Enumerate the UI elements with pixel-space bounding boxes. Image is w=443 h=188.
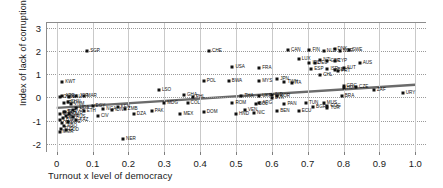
data-point-marker xyxy=(308,48,311,51)
data-point-marker xyxy=(183,93,186,96)
data-point-marker xyxy=(297,110,300,113)
data-point-marker xyxy=(312,106,315,109)
x-axis-tick-label: 0.2 xyxy=(122,158,135,169)
gridline-vertical xyxy=(272,22,273,152)
data-point-label: IDN xyxy=(115,108,123,113)
data-point-marker xyxy=(258,80,261,83)
data-point-marker xyxy=(132,113,135,116)
data-point-label: SGP xyxy=(90,49,100,54)
data-point-label: SVK xyxy=(275,96,284,101)
data-point-marker xyxy=(283,81,286,84)
data-point-label: NIC xyxy=(257,110,265,115)
data-point-marker xyxy=(240,94,243,97)
data-point-marker xyxy=(202,80,205,83)
x-axis-tick-mark xyxy=(272,152,273,155)
data-point-label: ECU xyxy=(302,109,312,114)
x-axis-tick-mark xyxy=(164,152,165,155)
x-axis-tick-mark xyxy=(308,152,309,155)
data-point-marker xyxy=(179,113,182,116)
data-point-marker xyxy=(227,80,230,83)
x-axis-tick-label: 0.1 xyxy=(86,158,99,169)
x-axis-tick-label: 0.6 xyxy=(265,158,278,169)
data-point-marker xyxy=(163,102,166,105)
data-point-label: MMR xyxy=(63,130,74,135)
data-point-marker xyxy=(58,131,61,134)
data-point-marker xyxy=(290,82,293,85)
data-point-label: VNM xyxy=(74,102,84,107)
x-axis-tick-label: 0.3 xyxy=(158,158,171,169)
data-point-marker xyxy=(71,116,74,119)
x-axis-tick-label: 0.8 xyxy=(337,158,350,169)
data-point-marker xyxy=(102,108,105,111)
plot-area: 3210-1-200.10.20.30.40.50.60.70.80.91.0S… xyxy=(46,22,426,152)
data-point-marker xyxy=(340,94,343,97)
data-point-marker xyxy=(333,68,336,71)
data-point-label: CHL xyxy=(323,73,332,78)
data-point-marker xyxy=(59,96,62,99)
x-axis-tick-label: 0.5 xyxy=(229,158,242,169)
y-axis-tick-label: 1 xyxy=(36,69,41,80)
data-point-marker xyxy=(58,113,61,116)
y-axis-tick-label: 0 xyxy=(36,92,41,103)
data-point-label: HND xyxy=(239,111,249,116)
axis-frame-line xyxy=(46,22,47,152)
data-point-marker xyxy=(401,91,404,94)
data-point-label: ZAF xyxy=(377,87,386,92)
y-axis-title: Index of lack of corruption xyxy=(18,0,28,128)
data-point-marker xyxy=(66,120,69,123)
data-point-label: VEN xyxy=(248,108,257,113)
data-point-label: ESP xyxy=(314,67,323,72)
data-point-label: FIN xyxy=(312,48,319,53)
data-point-marker xyxy=(258,102,261,105)
data-point-label: PAN xyxy=(287,102,296,107)
data-point-marker xyxy=(91,104,94,107)
data-point-marker xyxy=(270,96,273,99)
data-point-label: PAK xyxy=(155,109,164,114)
data-point-marker xyxy=(319,74,322,77)
data-point-label: COL xyxy=(191,101,200,106)
data-point-label: USA xyxy=(235,65,244,70)
data-point-marker xyxy=(310,68,313,71)
x-axis-tick-mark xyxy=(57,152,58,155)
scatter-plot-figure: Index of lack of corruption Turnout x le… xyxy=(0,0,443,188)
data-point-marker xyxy=(62,116,65,119)
gridline-vertical xyxy=(308,22,309,152)
data-point-label: CYP xyxy=(338,59,347,64)
data-point-marker xyxy=(86,50,89,53)
data-point-marker xyxy=(75,95,78,98)
data-point-label: AUS xyxy=(363,60,372,65)
data-point-label: KWT xyxy=(65,79,75,84)
y-axis-tick-label: 2 xyxy=(36,46,41,57)
data-point-label: ITA xyxy=(295,81,302,86)
x-axis-title: Turnout x level of democracy xyxy=(48,170,172,181)
data-point-label: NER xyxy=(126,136,136,141)
x-axis-tick-mark xyxy=(93,152,94,155)
data-point-marker xyxy=(342,86,345,89)
data-point-marker xyxy=(157,89,160,92)
data-point-label: MDG xyxy=(167,101,178,106)
x-axis-tick-mark xyxy=(128,152,129,155)
gridline-vertical xyxy=(236,22,237,152)
data-point-marker xyxy=(82,94,85,97)
data-point-label: MEX xyxy=(183,112,193,117)
data-point-label: FRA xyxy=(262,65,271,70)
data-point-label: ARG xyxy=(262,101,272,106)
x-axis-tick-label: 0.4 xyxy=(194,158,207,169)
data-point-marker xyxy=(231,102,234,105)
data-point-label: IRL xyxy=(312,60,319,65)
data-point-label: SWE xyxy=(352,48,362,53)
data-point-label: NLD xyxy=(327,49,336,54)
data-point-marker xyxy=(63,110,66,113)
data-point-marker xyxy=(322,50,325,53)
data-point-marker xyxy=(308,61,311,64)
data-point-marker xyxy=(235,112,238,115)
data-point-label: NGA xyxy=(106,107,116,112)
data-point-label: CAN xyxy=(291,48,301,53)
data-point-label: POL xyxy=(207,79,216,84)
data-point-marker xyxy=(191,95,194,98)
x-axis-tick-label: 0 xyxy=(54,158,59,169)
data-point-marker xyxy=(208,50,211,53)
data-point-marker xyxy=(186,102,189,105)
y-axis-tick-label: -2 xyxy=(33,138,41,149)
data-point-marker xyxy=(304,102,307,105)
